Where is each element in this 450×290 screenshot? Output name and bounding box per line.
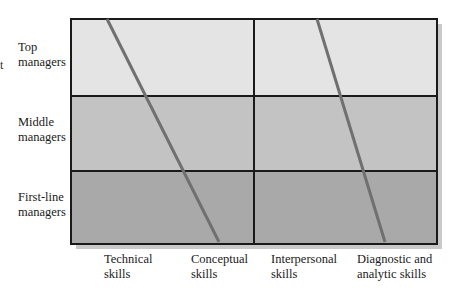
col-label-diagnostic-analytic: Diagnostic and analytic skills <box>357 252 432 282</box>
col-label-line2: skills <box>104 267 152 282</box>
col-label-line1: Diagnostic and <box>357 252 432 267</box>
col-label-conceptual: Conceptual skills <box>191 252 248 282</box>
col-label-technical: Technical skills <box>104 252 152 282</box>
col-label-line1: Conceptual <box>191 252 248 267</box>
skill-divider-lines <box>0 0 450 290</box>
col-label-interpersonal: Interpersonal skills <box>271 252 337 282</box>
divider-interpersonal-diagnostic <box>317 19 385 242</box>
col-label-line2: analytic skills <box>357 267 432 282</box>
col-label-line1: Technical <box>104 252 152 267</box>
divider-technical-conceptual <box>107 19 219 242</box>
col-label-line2: skills <box>191 267 248 282</box>
col-label-line1: Interpersonal <box>271 252 337 267</box>
col-label-line2: skills <box>271 267 337 282</box>
